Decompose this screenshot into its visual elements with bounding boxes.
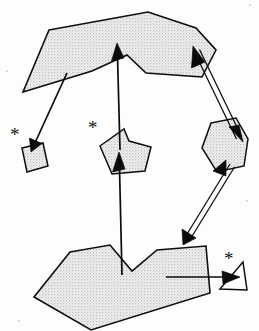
center-pentagon [100,129,151,174]
figure-canvas: * * * [0,0,259,331]
asterisk-near-small-quad: * [10,125,20,144]
double-arrow-right-pentagon-to-bottom-polygon [182,160,235,245]
figure-vector-layer [0,0,259,331]
asterisk-near-center-pentagon: * [88,118,98,137]
scan-speck [6,70,8,72]
asterisk-near-small-triangle: * [224,249,234,268]
scan-speck [18,320,20,322]
scan-speck [246,200,248,202]
scan-speck [249,4,251,6]
